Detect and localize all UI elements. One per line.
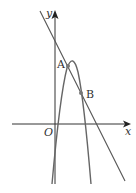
point-b-label: B xyxy=(86,88,94,101)
y-axis-label: y xyxy=(45,7,53,20)
x-axis-label: x xyxy=(125,125,132,138)
point-a-label: A xyxy=(56,58,66,71)
coordinate-diagram: y x O A B xyxy=(0,0,136,193)
point-a xyxy=(66,64,70,68)
parabola-graph xyxy=(52,61,91,184)
origin-label: O xyxy=(44,126,53,139)
point-b xyxy=(79,91,83,95)
